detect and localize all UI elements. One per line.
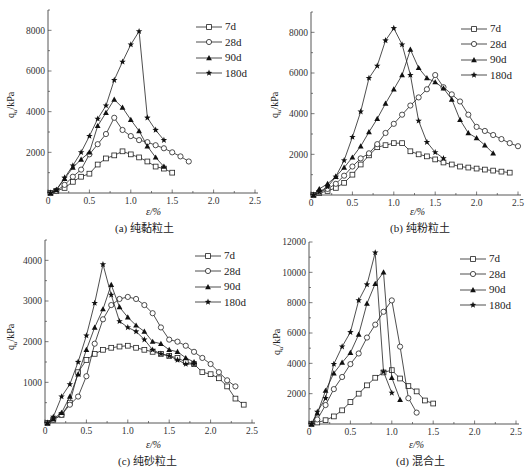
legend-marker-icon: [460, 254, 486, 264]
circle-marker: [95, 142, 100, 147]
circle-marker: [225, 378, 230, 383]
triangle-marker: [92, 324, 98, 329]
square-marker: [109, 345, 114, 350]
legend-marker-icon: [195, 297, 221, 307]
legend-item-180d: 180d: [460, 298, 511, 314]
x-tick-label: 1.0: [386, 427, 398, 437]
star-marker: [111, 77, 117, 83]
circle-marker: [117, 296, 122, 301]
square-marker: [373, 375, 378, 380]
star-marker: [91, 300, 97, 306]
circle-marker: [466, 112, 471, 117]
triangle-marker: [383, 101, 389, 106]
legend-label: 90d: [224, 279, 241, 295]
circle-marker: [340, 374, 345, 379]
square-marker: [92, 351, 97, 356]
triangle-marker: [474, 135, 480, 140]
square-marker: [84, 358, 89, 363]
circle-marker: [491, 132, 496, 137]
circle-marker: [233, 384, 238, 389]
legend-label: 28d: [224, 264, 241, 280]
legend-item-7d: 7d: [460, 251, 511, 267]
x-axis-label: ε/%: [409, 439, 424, 450]
circle-marker: [191, 349, 196, 354]
circle-marker: [373, 322, 378, 327]
triangle-marker: [358, 143, 364, 148]
y-tick-label: 2000: [23, 337, 42, 347]
circle-marker: [449, 92, 454, 97]
x-tick-label: 2.0: [205, 426, 217, 436]
square-marker: [145, 159, 150, 164]
x-axis-label: ε/%: [146, 439, 161, 450]
series-90d: [48, 96, 167, 195]
y-tick-label: 4000: [289, 109, 308, 119]
circle-marker: [205, 269, 210, 274]
square-marker: [79, 174, 84, 179]
circle-marker: [62, 182, 67, 187]
legend: 7d28d90d180d: [461, 21, 512, 83]
legend-marker-icon: [460, 269, 486, 279]
square-marker: [425, 154, 430, 159]
square-marker: [112, 153, 117, 158]
square-marker: [433, 157, 438, 162]
circle-marker: [381, 309, 386, 314]
circle-marker: [457, 99, 462, 104]
x-tick-label: 1.0: [125, 196, 137, 206]
star-marker: [103, 102, 109, 108]
circle-marker: [515, 144, 520, 149]
square-marker: [472, 26, 477, 31]
square-marker: [431, 401, 436, 406]
star-marker: [349, 134, 355, 140]
triangle-marker: [457, 117, 463, 122]
x-axis-label: ε/%: [410, 206, 425, 217]
y-axis-label: qu/kPa: [269, 92, 283, 118]
legend-label: 28d: [225, 35, 242, 51]
circle-marker: [200, 355, 205, 360]
square-marker: [398, 376, 403, 381]
triangle-marker: [416, 65, 422, 70]
circle-marker: [470, 272, 475, 277]
square-marker: [507, 170, 512, 175]
x-tick-label: 0: [307, 427, 312, 437]
circle-marker: [499, 136, 504, 141]
star-marker: [415, 117, 421, 123]
x-tick-label: 2.5: [249, 196, 261, 206]
legend-marker-icon: [460, 285, 486, 295]
x-tick-label: 2.0: [471, 198, 483, 208]
triangle-marker: [356, 332, 362, 337]
star-marker: [78, 149, 84, 155]
circle-marker: [474, 124, 479, 129]
series-180d: [47, 28, 167, 196]
triangle-marker: [389, 375, 395, 380]
legend-marker-icon: [461, 55, 487, 65]
square-marker: [499, 169, 504, 174]
x-tick-label: 0.5: [80, 426, 92, 436]
circle-marker: [471, 42, 476, 47]
legend-label: 7d: [225, 19, 236, 35]
x-tick-label: 1.5: [429, 198, 441, 208]
star-marker: [75, 359, 81, 365]
circle-marker: [70, 174, 75, 179]
circle-marker: [397, 344, 402, 349]
circle-marker: [389, 298, 394, 303]
star-marker: [94, 115, 100, 121]
star-marker: [206, 70, 212, 76]
circle-marker: [348, 361, 353, 366]
circle-marker: [178, 154, 183, 159]
circle-marker: [358, 156, 363, 161]
triangle-marker: [141, 329, 147, 334]
square-marker: [340, 408, 345, 413]
legend-item-28d: 28d: [195, 264, 246, 280]
legend-item-28d: 28d: [460, 267, 511, 283]
star-marker: [470, 302, 476, 308]
square-marker: [365, 383, 370, 388]
square-marker: [416, 152, 421, 157]
circle-marker: [507, 141, 512, 146]
square-marker: [474, 166, 479, 171]
triangle-marker: [374, 116, 380, 121]
square-marker: [414, 389, 419, 394]
star-marker: [331, 361, 337, 367]
square-marker: [408, 149, 413, 154]
y-tick-label: 10000: [282, 268, 306, 278]
legend-item-28d: 28d: [196, 35, 247, 51]
